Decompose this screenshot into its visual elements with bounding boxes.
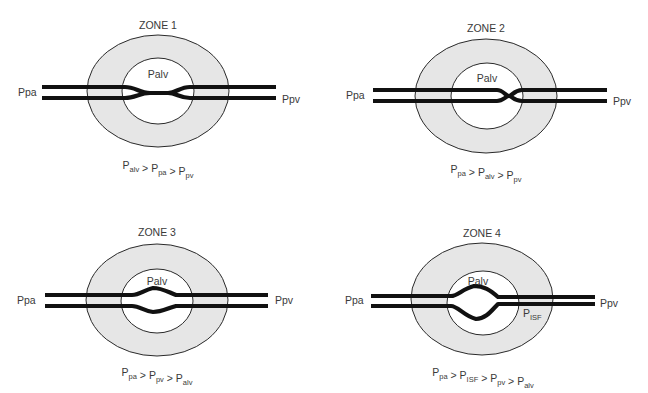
pisf-symbol: P bbox=[523, 307, 530, 319]
zone-2-ppa-label: Ppa bbox=[346, 89, 365, 101]
zone-1-ppa-label: Ppa bbox=[18, 86, 37, 98]
equation-term-symbol: P bbox=[123, 159, 130, 171]
equation-term-subscript: alv bbox=[524, 381, 534, 390]
greater-than-operator: > bbox=[164, 372, 176, 384]
pisf-subscript: ISF bbox=[530, 313, 542, 322]
equation-term-symbol: P bbox=[151, 162, 158, 174]
zone-2-palv-label: Palv bbox=[477, 72, 498, 84]
equation-term-symbol: P bbox=[149, 369, 156, 381]
greater-than-operator: > bbox=[495, 169, 507, 181]
equation-term-subscript: pv bbox=[186, 171, 194, 180]
greater-than-operator: > bbox=[139, 162, 151, 174]
greater-than-operator: > bbox=[478, 372, 490, 384]
equation-term-symbol: P bbox=[478, 166, 485, 178]
equation-term-subscript: ISF bbox=[467, 375, 479, 384]
equation-term-subscript: pv bbox=[514, 175, 522, 184]
zone-1-panel: ZONE 1 Palv Ppa Ppv Palv > Ppa > Ppv bbox=[18, 19, 301, 180]
zone-1-equation: Palv > Ppa > Ppv bbox=[123, 159, 194, 180]
zone-4-ppv-label: Ppv bbox=[600, 297, 619, 309]
zone-3-ppa-label: Ppa bbox=[17, 294, 36, 306]
zone-2-title: ZONE 2 bbox=[467, 22, 505, 34]
zone-4-panel: ZONE 4 Palv PISF Ppa Ppv Ppa > PISF > Pp… bbox=[345, 227, 619, 390]
zone-2-panel: ZONE 2 Palv Ppa Ppv Ppa > Palv > Ppv bbox=[346, 22, 632, 184]
equation-term-symbol: P bbox=[178, 165, 185, 177]
zone-3-panel: ZONE 3 Palv Ppa Ppv Ppa > Ppv > Palv bbox=[17, 226, 294, 387]
greater-than-operator: > bbox=[505, 375, 517, 387]
equation-term-symbol: P bbox=[176, 372, 183, 384]
equation-term-subscript: alv bbox=[485, 172, 495, 181]
equation-term-symbol: P bbox=[517, 375, 524, 387]
greater-than-operator: > bbox=[137, 369, 149, 381]
zone-3-ppv-label: Ppv bbox=[275, 294, 294, 306]
zone-4-ppa-label: Ppa bbox=[345, 294, 364, 306]
zone-4-title: ZONE 4 bbox=[463, 227, 501, 239]
zone-2-equation: Ppa > Palv > Ppv bbox=[451, 163, 522, 184]
greater-than-operator: > bbox=[448, 369, 460, 381]
equation-term-symbol: P bbox=[451, 163, 458, 175]
zone-4-equation: Ppa > PISF > Ppv > Palv bbox=[432, 366, 534, 390]
equation-term-subscript: alv bbox=[130, 165, 140, 174]
zone-3-equation: Ppa > Ppv > Palv bbox=[122, 366, 193, 387]
zone-1-palv-label: Palv bbox=[148, 68, 169, 80]
lung-zones-diagram: ZONE 1 Palv Ppa Ppv Palv > Ppa > Ppv ZON… bbox=[0, 0, 648, 393]
equation-term-symbol: P bbox=[460, 369, 467, 381]
zone-2-ppv-label: Ppv bbox=[613, 95, 632, 107]
zone-1-title: ZONE 1 bbox=[139, 19, 177, 31]
equation-term-symbol: P bbox=[506, 169, 513, 181]
zone-3-title: ZONE 3 bbox=[138, 226, 176, 238]
zone-1-ppv-label: Ppv bbox=[282, 93, 301, 105]
equation-term-symbol: P bbox=[490, 372, 497, 384]
greater-than-operator: > bbox=[167, 165, 179, 177]
zone-3-palv-label: Palv bbox=[147, 275, 168, 287]
greater-than-operator: > bbox=[466, 166, 478, 178]
equation-term-symbol: P bbox=[432, 366, 439, 378]
equation-term-subscript: alv bbox=[183, 378, 193, 387]
equation-term-symbol: P bbox=[122, 366, 129, 378]
